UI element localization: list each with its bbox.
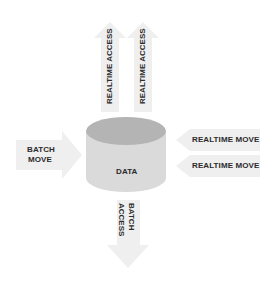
cylinder-top bbox=[86, 117, 166, 145]
realtime-access-label-1: REALTIME ACCESS bbox=[105, 28, 115, 104]
batch-move-label-line-2: MOVE bbox=[28, 155, 52, 165]
batch-access-label-line-2: ACCESS bbox=[116, 203, 126, 236]
data-access-diagram: REALTIME ACCESS REALTIME ACCESS BATCH MO… bbox=[0, 0, 273, 286]
realtime-access-label-2: REALTIME ACCESS bbox=[138, 28, 148, 104]
data-label: DATA bbox=[116, 167, 137, 177]
realtime-move-label-1: REALTIME MOVE bbox=[192, 135, 259, 145]
batch-move-label-line-1: BATCH bbox=[27, 145, 55, 155]
batch-access-label-line-1: BATCH bbox=[126, 203, 136, 230]
realtime-move-label-2: REALTIME MOVE bbox=[192, 161, 259, 171]
